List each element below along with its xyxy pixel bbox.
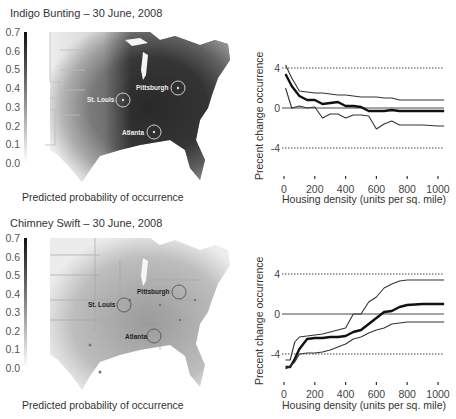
bottom-line-chart [0, 0, 456, 419]
bottom-chart-xlabel: Housing density (units per sq. mile) [282, 399, 446, 411]
y-tick-label: -4 [266, 348, 280, 360]
y-tick-label: 0 [266, 308, 280, 320]
y-tick-label: 4 [266, 268, 280, 280]
bottom-chart-ylabel: Precent change occurrence [253, 257, 265, 385]
